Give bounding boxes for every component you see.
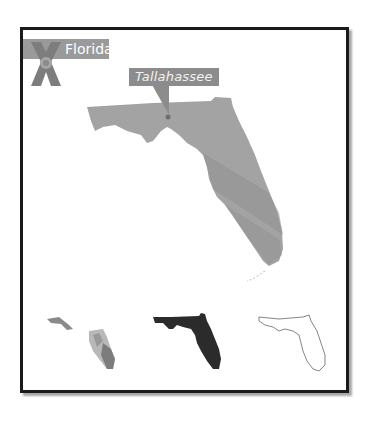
variant-solid-silhouette[interactable]: [153, 313, 221, 369]
capital-marker[interactable]: [166, 115, 171, 120]
capital-callout: Tallahassee: [129, 68, 219, 86]
florida-flag-icon: [29, 42, 63, 86]
state-badge: Florida: [23, 39, 109, 59]
florida-keys: [247, 271, 265, 281]
state-name-label: Florida: [65, 40, 113, 58]
variant-outline[interactable]: [259, 315, 325, 371]
variant-photo-textured[interactable]: [47, 317, 115, 369]
map-frame: Florida Tallahassee: [20, 27, 349, 393]
